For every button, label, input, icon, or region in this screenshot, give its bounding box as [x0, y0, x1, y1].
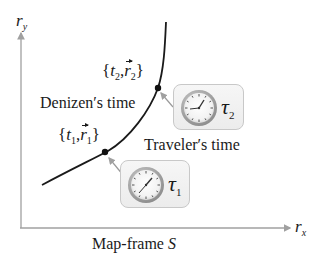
tau-1-label: τ1 [168, 173, 181, 198]
x-axis-label: rx [295, 218, 306, 238]
clock-box-2: τ2 [173, 84, 244, 130]
event-point-1 [102, 149, 108, 155]
clock-box-1: τ1 [120, 160, 190, 208]
clock-icon [126, 165, 166, 205]
event-point-2 [155, 85, 161, 91]
event-label-2: {t2,r2} [102, 62, 144, 82]
y-axis-label: ry [16, 12, 27, 32]
event-label-1: {t1,r1} [58, 126, 100, 146]
denizen-time-label: Denizen′s time [40, 95, 135, 111]
pointer-line-2 [161, 93, 173, 107]
frame-caption: Map-frame S [92, 236, 176, 252]
clock-icon [179, 88, 219, 128]
tau-2-label: τ2 [221, 96, 234, 121]
traveler-time-label: Traveler′s time [144, 137, 240, 153]
diagram-canvas [0, 0, 323, 260]
